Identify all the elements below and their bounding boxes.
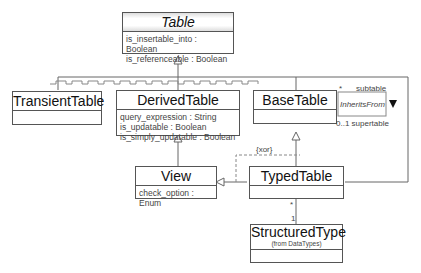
association-name: InheritsFrom (340, 100, 385, 109)
class-name: BaseTable (254, 91, 336, 110)
class-name: Table (123, 13, 233, 32)
role-label: subtable (356, 84, 386, 93)
class-view[interactable]: View check_option : Enum (135, 166, 217, 199)
attribute: is_updatable : Boolean (120, 122, 236, 132)
direction-arrow-icon (389, 100, 397, 108)
multiplicity-label: 1 (291, 214, 295, 223)
class-structured-type[interactable]: StructuredType (from DataTypes) (250, 224, 343, 263)
class-transient-table[interactable]: TransientTable (12, 91, 102, 125)
constraint-label: {xor} (256, 145, 272, 154)
class-attributes: is_insertable_into : Boolean is_referenc… (123, 32, 233, 66)
class-name: DerivedTable (117, 91, 239, 110)
class-table[interactable]: Table is_insertable_into : Boolean is_re… (122, 12, 234, 54)
multiplicity-label: * (339, 84, 342, 93)
class-derived-table[interactable]: DerivedTable query_expression : String i… (116, 90, 240, 136)
class-name: StructuredType (251, 225, 342, 240)
class-base-table[interactable]: BaseTable (253, 90, 337, 124)
class-name: View (136, 167, 216, 186)
class-typed-table[interactable]: TypedTable (249, 166, 344, 199)
role-label: 0..1 supertable (336, 119, 389, 128)
class-attributes: check_option : Enum (136, 186, 216, 210)
attribute: is_referenceable : Boolean (126, 54, 230, 64)
attribute: is_simply_updatable : Boolean (120, 132, 236, 142)
class-name: TypedTable (250, 167, 343, 186)
attribute: query_expression : String (120, 112, 236, 122)
stereotype-label: (from DataTypes) (251, 240, 342, 250)
attribute: check_option : Enum (139, 188, 213, 208)
class-name: TransientTable (13, 92, 101, 111)
multiplicity-label: * (290, 200, 293, 209)
class-attributes: query_expression : String is_updatable :… (117, 110, 239, 144)
attribute: is_insertable_into : Boolean (126, 34, 230, 54)
